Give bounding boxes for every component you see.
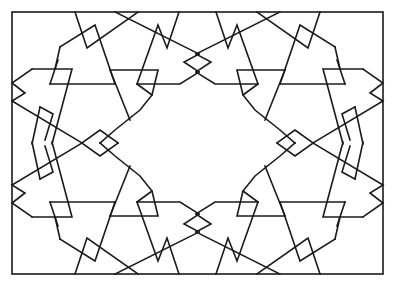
frame [12, 12, 383, 274]
quadrant-top-left [12, 12, 199, 144]
pattern-canvas [0, 0, 393, 285]
quadrant-top-right [196, 12, 383, 144]
quadrant-bottom-left [12, 142, 199, 274]
pattern-figure: Geometric interlaced star pattern [0, 0, 393, 285]
quadrant-bottom-right [196, 142, 383, 274]
